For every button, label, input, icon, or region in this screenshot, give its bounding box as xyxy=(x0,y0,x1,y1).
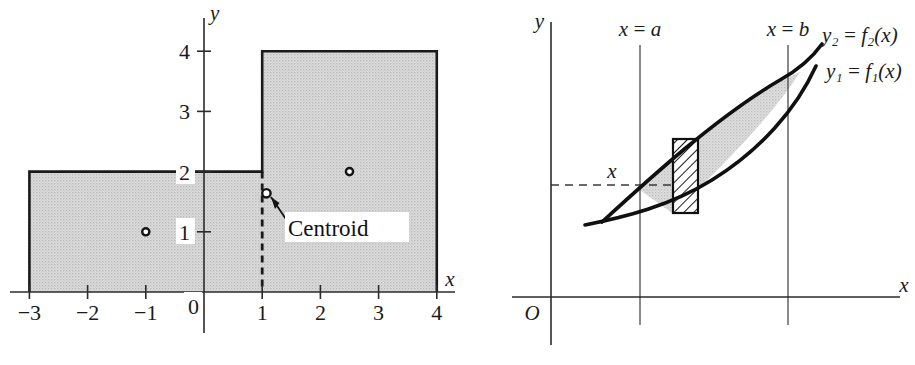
x-tick-label: −2 xyxy=(76,300,99,325)
y-tick-label: 3 xyxy=(179,99,190,124)
x-tick-label: −3 xyxy=(18,300,41,325)
left-part-centroid-marker xyxy=(142,228,149,235)
origin-label: O xyxy=(524,301,539,325)
composite-centroid-marker xyxy=(262,189,270,197)
x-equals-b-label: x = b xyxy=(766,17,809,41)
right-part-centroid-marker xyxy=(346,168,353,175)
x-tick-label: −1 xyxy=(134,300,157,325)
x-tick-label: 3 xyxy=(373,300,384,325)
x-tick-label: 2 xyxy=(315,300,326,325)
area-between-curves-figure: x y x O x = a x = xyxy=(460,0,915,365)
figure-page: −3 −2 −1 1 2 3 4 1 2 3 4 0 x y xyxy=(0,0,915,365)
centroid-label: Centroid xyxy=(288,216,369,241)
shaded-area-between-curves xyxy=(640,72,800,213)
origin-label: 0 xyxy=(188,294,199,319)
y-tick-label: 2 xyxy=(179,160,190,185)
curves xyxy=(585,44,822,225)
x-axis-label: x xyxy=(444,267,455,291)
lower-curve-label: y₁ = f₁(x) xyxy=(824,59,902,83)
strip-x-label: x xyxy=(606,159,617,183)
upper-curve-label: y₂ = f₂(x) xyxy=(820,23,898,47)
y-tick-label: 1 xyxy=(179,220,190,245)
y-tick-label: 4 xyxy=(179,39,190,64)
x-tick-labels: −3 −2 −1 1 2 3 4 xyxy=(18,300,443,325)
y-axis-label: y xyxy=(533,9,545,33)
composite-region-centroid-figure: −3 −2 −1 1 2 3 4 1 2 3 4 0 x y xyxy=(0,0,460,365)
y-axis-label: y xyxy=(208,1,220,25)
x-equals-a-label: x = a xyxy=(618,17,661,41)
x-axis-label: x xyxy=(898,273,909,297)
x-tick-label: 1 xyxy=(257,300,268,325)
x-tick-label: 4 xyxy=(431,300,442,325)
